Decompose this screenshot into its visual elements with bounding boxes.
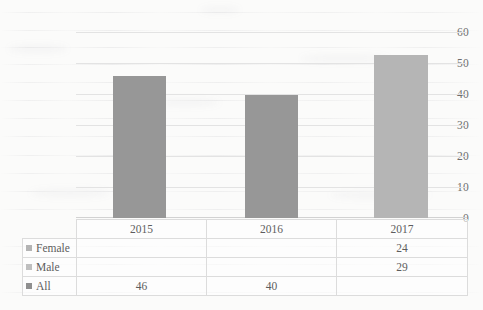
cell-female-2015	[77, 239, 207, 258]
cell-male-2015	[77, 258, 207, 277]
cell-all-2016: 40	[207, 277, 337, 296]
chart-data-table: 2015 2016 2017 Female 24 Male 29	[22, 219, 468, 296]
legend-item-male[interactable]: Male	[23, 258, 77, 277]
legend-label-female: Female	[36, 243, 70, 255]
table-header-row: 2015 2016 2017	[23, 220, 468, 239]
column-header-2015: 2015	[77, 220, 207, 239]
legend-item-female[interactable]: Female	[23, 239, 77, 258]
bar-chart: 60 50 40 30 20 10 0	[0, 0, 483, 222]
table-row: Female 24	[23, 239, 468, 258]
table-row: Male 29	[23, 258, 468, 277]
cell-male-2016	[207, 258, 337, 277]
cell-all-2015: 46	[77, 277, 207, 296]
gridline-60	[76, 32, 467, 33]
legend-header-cell	[23, 220, 77, 239]
legend-swatch-icon	[26, 283, 32, 289]
chart-page: 60 50 40 30 20 10 0	[0, 0, 483, 310]
cell-all-2017	[337, 277, 468, 296]
legend-label-male: Male	[36, 262, 60, 274]
cell-female-2016	[207, 239, 337, 258]
legend-swatch-icon	[26, 264, 32, 270]
bar-2016[interactable]	[245, 95, 298, 218]
legend-swatch-icon	[26, 245, 32, 251]
table-row: All 46 40	[23, 277, 468, 296]
bar-2015[interactable]	[113, 76, 166, 218]
legend-label-all: All	[36, 281, 51, 293]
column-header-2017: 2017	[337, 220, 468, 239]
bar-2017[interactable]	[374, 55, 428, 218]
plot-area	[76, 32, 467, 218]
legend-item-all[interactable]: All	[23, 277, 77, 296]
cell-female-2017: 24	[337, 239, 468, 258]
column-header-2016: 2016	[207, 220, 337, 239]
cell-male-2017: 29	[337, 258, 468, 277]
